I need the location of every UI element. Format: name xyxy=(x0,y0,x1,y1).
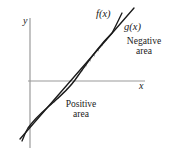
curve-f xyxy=(22,13,122,141)
curve-g-label: g(x) xyxy=(124,21,141,32)
negative-area-label-line2: area xyxy=(112,46,176,56)
positive-area-label: Positive area xyxy=(52,99,110,120)
curve-f-label: f(x) xyxy=(96,8,111,19)
positive-area-label-line2: area xyxy=(52,109,110,119)
negative-area-label: Negative area xyxy=(112,36,176,57)
y-axis-label: y xyxy=(23,16,27,27)
negative-area-label-line1: Negative xyxy=(112,36,176,46)
positive-area-label-line1: Positive xyxy=(52,99,110,109)
x-axis-label: x xyxy=(139,81,143,92)
math-figure: y x f(x) g(x) Negative area Positive are… xyxy=(0,0,178,152)
